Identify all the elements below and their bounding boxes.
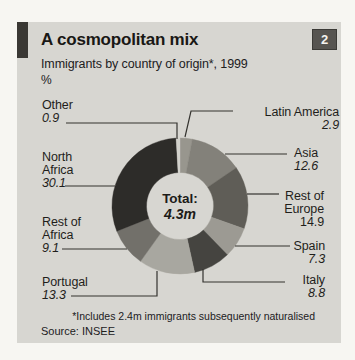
label-spain-value: 7.3: [265, 253, 325, 266]
label-asia-value: 12.6: [258, 160, 318, 173]
label-portugal-value: 13.3: [42, 289, 100, 302]
total-label: Total:: [140, 192, 220, 207]
label-other: Other 0.9: [42, 99, 100, 125]
label-rest-of-europe: Rest of Europe 14.9: [269, 190, 324, 229]
label-north-africa-name: North Africa: [42, 151, 100, 177]
label-spain: Spain 7.3: [265, 240, 325, 266]
label-latin-america: Latin America 2.9: [244, 106, 339, 132]
label-portugal: Portugal 13.3: [42, 276, 100, 302]
donut-center-label: Total: 4.3m: [140, 192, 220, 221]
leader-other: [66, 123, 177, 139]
footnote: *Includes 2.4m immigrants subsequently n…: [72, 310, 315, 322]
label-rest-of-africa-value: 9.1: [42, 242, 100, 255]
label-rest-of-europe-name: Rest of Europe: [269, 190, 324, 216]
label-asia: Asia 12.6: [258, 147, 318, 173]
label-italy-value: 8.8: [265, 287, 325, 300]
label-rest-of-africa-name: Rest of Africa: [42, 216, 100, 242]
label-north-africa-value: 30.1: [42, 177, 100, 190]
label-italy: Italy 8.8: [265, 274, 325, 300]
label-rest-of-europe-value: 14.9: [269, 216, 324, 229]
label-latin-america-value: 2.9: [244, 119, 339, 132]
label-other-value: 0.9: [42, 112, 100, 125]
label-north-africa: North Africa 30.1: [42, 151, 100, 190]
chart-card: A cosmopolitan mix Immigrants by country…: [17, 22, 341, 343]
label-rest-of-africa: Rest of Africa 9.1: [42, 216, 100, 255]
source: Source: INSEE: [41, 325, 115, 337]
total-value: 4.3m: [140, 207, 220, 222]
leader-latin-america: [185, 111, 233, 137]
